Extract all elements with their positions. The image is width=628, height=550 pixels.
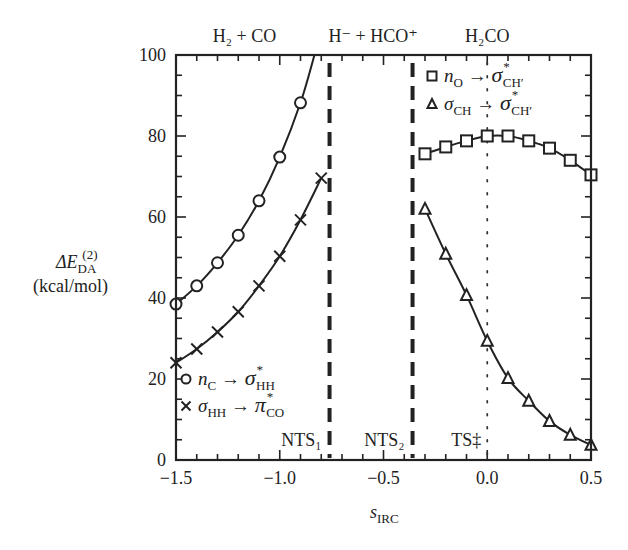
triangle-marker (482, 335, 493, 346)
legend-label: nC → σ*HH (198, 362, 275, 393)
cross-marker (274, 251, 285, 262)
x-axis-label-sub: IRC (377, 511, 399, 526)
square-marker (482, 131, 493, 142)
transition-state-label: NTS₂ (364, 430, 404, 450)
svg-text:sIRC: sIRC (370, 502, 399, 526)
tick-labels: −1.5−1.0−0.50.00.5020406080100 (139, 45, 602, 488)
cross-marker (316, 173, 327, 184)
legend-item: nC → σ*HH (182, 362, 275, 393)
square-marker (440, 141, 451, 152)
cross-marker (254, 280, 265, 291)
triangle-marker (461, 289, 472, 300)
cross-marker (182, 402, 191, 411)
legend-item: σHH → π*CO (182, 389, 285, 420)
series-line (425, 209, 591, 445)
y-axis-label-sup: (2) (82, 247, 97, 262)
x-tick-label: −0.5 (367, 468, 400, 488)
circle-marker (212, 257, 223, 268)
legend-item: σCH → σ*CH′ (428, 87, 533, 118)
x-tick-label: −1.5 (160, 468, 193, 488)
y-tick-label: 0 (157, 450, 166, 470)
x-axis-label-main: s (370, 502, 377, 522)
square-marker (544, 143, 555, 154)
circle-marker (295, 97, 306, 108)
square-marker (420, 148, 431, 159)
region-label: H₂CO (465, 26, 509, 46)
x-tick-label: 0.0 (476, 468, 499, 488)
x-axis-label: sIRC (370, 502, 399, 526)
circle-marker (191, 280, 202, 291)
square-marker (461, 135, 472, 146)
series-line (176, 53, 315, 304)
y-axis-label: ΔEDA(2) (kcal/mol) (33, 247, 108, 297)
svg-text:ΔEDA(2): ΔEDA(2) (55, 247, 98, 276)
y-tick-label: 40 (148, 288, 166, 308)
cross-marker (295, 214, 306, 225)
square-marker (523, 135, 534, 146)
legend-label: nO → σ*CH′ (444, 59, 524, 90)
legend-label: σCH → σ*CH′ (444, 87, 532, 118)
transition-state-label: TS‡ (451, 430, 481, 450)
triangle-marker (440, 248, 451, 259)
y-axis-units: (kcal/mol) (33, 276, 108, 297)
y-tick-label: 100 (139, 45, 166, 65)
y-axis-label-sub: DA (78, 261, 97, 276)
cross-marker (212, 327, 223, 338)
cross-marker (233, 306, 244, 317)
y-tick-label: 20 (148, 369, 166, 389)
region-label: H⁻ + HCO⁺ (329, 26, 418, 46)
triangle-marker (565, 429, 576, 440)
region-labels: H₂ + COH⁻ + HCO⁺H₂CO (213, 26, 510, 46)
x-tick-label: 0.5 (580, 468, 603, 488)
y-tick-label: 80 (148, 126, 166, 146)
square-marker (428, 72, 437, 81)
x-tick-label: −1.0 (263, 468, 296, 488)
triangle-marker (428, 99, 437, 108)
cross-marker (191, 344, 202, 355)
square-marker (565, 155, 576, 166)
transition-state-label: NTS₁ (281, 430, 321, 450)
y-axis-label-main: ΔE (55, 252, 78, 272)
circle-marker (274, 152, 285, 163)
y-tick-label: 60 (148, 207, 166, 227)
circle-marker (254, 195, 265, 206)
triangle-marker (420, 203, 431, 214)
region-label: H₂ + CO (213, 26, 276, 46)
square-marker (503, 131, 514, 142)
circle-marker (233, 230, 244, 241)
circle-marker (182, 375, 191, 384)
legend-label: σHH → π*CO (198, 389, 284, 420)
chart-figure: H₂ + COH⁻ + HCO⁺H₂CO NTS₁NTS₂TS‡ −1.5−1.… (0, 0, 628, 550)
series-line (176, 178, 321, 363)
vertical-markers: NTS₁NTS₂TS‡ (281, 63, 487, 458)
legend-item: nO → σ*CH′ (428, 59, 524, 90)
